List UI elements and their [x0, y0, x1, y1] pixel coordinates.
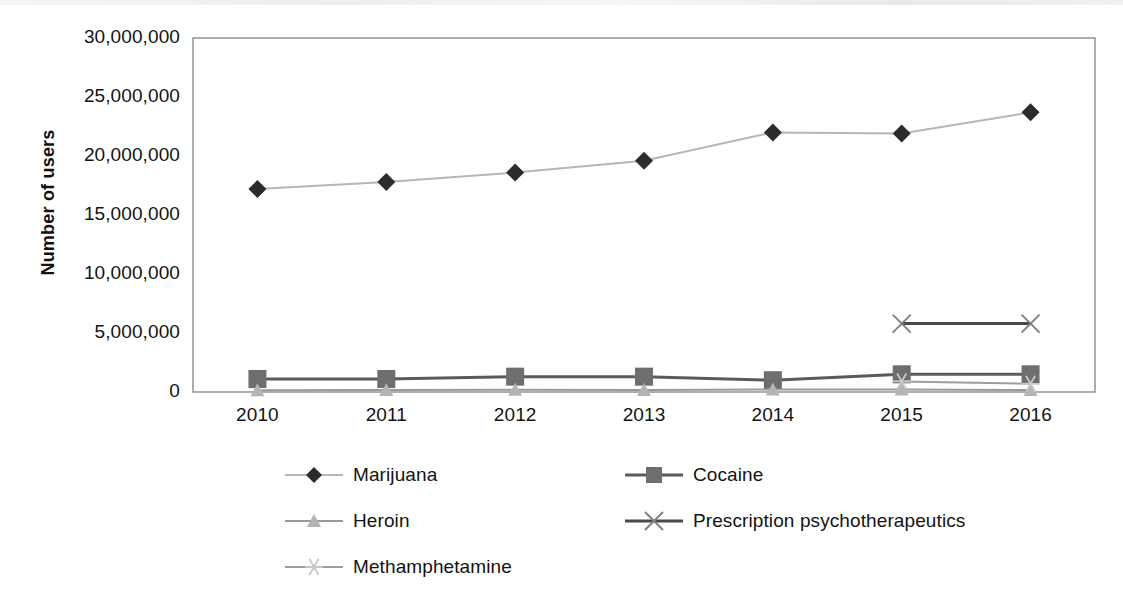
legend-item-prescription-psychotherapeutics[interactable]: Prescription psychotherapeutics	[623, 508, 965, 534]
legend-key-diamond-icon	[283, 464, 345, 486]
legend-label: Cocaine	[693, 464, 763, 486]
legend-key-square-icon	[623, 464, 685, 486]
data-point-square	[646, 467, 662, 483]
chart-legend: MarijuanaCocaineHeroinPrescription psych…	[283, 462, 983, 577]
legend-item-heroin[interactable]: Heroin	[283, 508, 410, 534]
legend-label: Prescription psychotherapeutics	[693, 510, 965, 532]
data-point-diamond	[306, 467, 322, 483]
data-point-asterisk	[305, 559, 323, 575]
legend-key-asterisk-icon	[283, 556, 345, 578]
legend-key-x-icon	[623, 510, 685, 532]
legend-item-methamphetamine[interactable]: Methamphetamine	[283, 554, 512, 580]
data-point-square	[1022, 365, 1040, 383]
legend-item-marijuana[interactable]: Marijuana	[283, 462, 437, 488]
legend-item-cocaine[interactable]: Cocaine	[623, 462, 763, 488]
legend-label: Heroin	[353, 510, 410, 532]
data-point-square	[635, 368, 653, 386]
legend-label: Methamphetamine	[353, 556, 512, 578]
legend-label: Marijuana	[353, 464, 437, 486]
legend-key-triangle-icon	[283, 510, 345, 532]
plot-frame	[193, 38, 1095, 392]
line-chart-figure: Number of users 05,000,00010,000,00015,0…	[0, 0, 1123, 592]
